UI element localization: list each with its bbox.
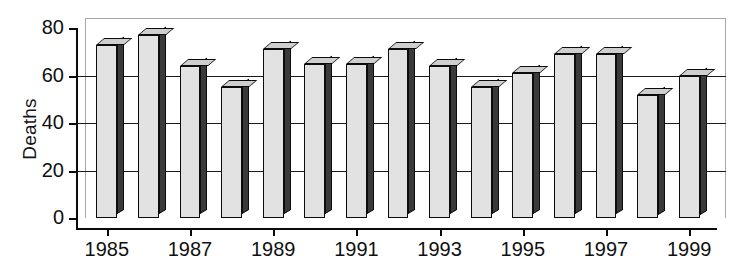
x-axis-tick: [440, 228, 442, 236]
x-axis: 19851987198919911993199519971999: [76, 228, 726, 280]
bar-front-face: [429, 66, 450, 218]
bar: [346, 64, 367, 218]
bar-side-face: [575, 46, 582, 214]
y-tick-label: 0: [20, 207, 64, 227]
bar-front-face: [596, 54, 617, 218]
bar-front-face: [679, 76, 700, 219]
bar: [221, 87, 242, 218]
x-axis-tick: [356, 228, 358, 236]
x-tick-label: 1993: [417, 238, 462, 261]
bar-front-face: [138, 35, 159, 218]
plot-area: [76, 18, 726, 230]
bar-front-face: [304, 64, 325, 218]
y-tick-label: 20: [20, 160, 64, 180]
bar-side-face: [450, 58, 457, 214]
bar-top-face: [679, 69, 715, 76]
bar: [263, 49, 284, 218]
bar: [429, 66, 450, 218]
bar-top-face: [637, 88, 673, 95]
x-axis-tick: [107, 228, 109, 236]
x-tick-label: 1995: [501, 238, 546, 261]
y-tick-label: 40: [20, 112, 64, 132]
bar: [138, 35, 159, 218]
bar-top-face: [596, 47, 632, 54]
bar-top-face: [96, 38, 132, 45]
bar-side-face: [117, 36, 124, 214]
bar-side-face: [325, 55, 332, 214]
bar-top-face: [512, 66, 548, 73]
bar-side-face: [616, 46, 623, 214]
bar-front-face: [471, 87, 492, 218]
bar-side-face: [200, 58, 207, 214]
bar-chart: Deaths 020406080 19851987198919911993199…: [0, 0, 750, 280]
x-axis-tick: [273, 228, 275, 236]
bar: [388, 49, 409, 218]
bar: [554, 54, 575, 218]
bar-top-face: [180, 59, 216, 66]
bar-front-face: [180, 66, 201, 218]
bar-top-face: [388, 42, 424, 49]
x-tick-label: 1991: [334, 238, 379, 261]
bar-side-face: [492, 79, 499, 214]
bar-top-face: [554, 47, 590, 54]
x-tick-label: 1985: [85, 238, 130, 261]
bar-front-face: [346, 64, 367, 218]
bar-front-face: [263, 49, 284, 218]
bar-side-face: [159, 27, 166, 214]
bar-front-face: [512, 73, 533, 218]
bar: [679, 76, 700, 219]
y-tick-label: 60: [20, 65, 64, 85]
bar: [512, 73, 533, 218]
bar-top-face: [221, 80, 257, 87]
bar: [304, 64, 325, 218]
bar-front-face: [221, 87, 242, 218]
bar-front-face: [554, 54, 575, 218]
x-axis-tick: [190, 228, 192, 236]
bar-side-face: [242, 79, 249, 214]
y-axis-tick-labels: 020406080: [14, 0, 64, 280]
bar-top-face: [471, 80, 507, 87]
bar-side-face: [284, 41, 291, 214]
bar: [596, 54, 617, 218]
bar-top-face: [263, 42, 299, 49]
bar: [96, 45, 117, 218]
bar-side-face: [533, 65, 540, 214]
bar-front-face: [388, 49, 409, 218]
bar-front-face: [96, 45, 117, 218]
bar-side-face: [700, 67, 707, 214]
bar: [471, 87, 492, 218]
bar-top-face: [429, 59, 465, 66]
bar-top-face: [138, 28, 174, 35]
bar-top-face: [346, 57, 382, 64]
x-tick-label: 1987: [168, 238, 213, 261]
bar-side-face: [408, 41, 415, 214]
bar: [637, 95, 658, 219]
x-axis-tick: [523, 228, 525, 236]
x-axis-tick: [689, 228, 691, 236]
bar-top-face: [304, 57, 340, 64]
bar-front-face: [637, 95, 658, 219]
y-tick-label: 80: [20, 17, 64, 37]
x-tick-label: 1999: [667, 238, 712, 261]
bar-series: [76, 18, 726, 230]
bar: [180, 66, 201, 218]
bar-side-face: [658, 86, 665, 214]
x-tick-label: 1989: [251, 238, 296, 261]
x-axis-tick: [606, 228, 608, 236]
bar-side-face: [367, 55, 374, 214]
x-tick-label: 1997: [584, 238, 629, 261]
